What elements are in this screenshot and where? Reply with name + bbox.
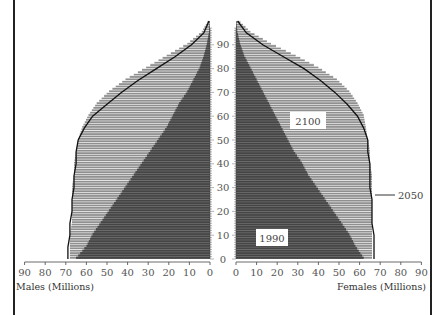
male-x-tick-label: 40 (121, 267, 134, 278)
age-tick-label: 50 (217, 135, 230, 146)
male-x-tick-label: 20 (162, 267, 175, 278)
female-x-tick-label: 50 (333, 267, 346, 278)
male-x-tick-label: 70 (59, 267, 72, 278)
age-tick-label: 20 (217, 206, 230, 217)
age-tick-label: 90 (217, 39, 230, 50)
male-x-tick-label: 10 (183, 267, 196, 278)
age-tick-label: 10 (217, 230, 230, 241)
females-axis-title: Females (Millions) (337, 281, 426, 292)
male-x-tick-label: 90 (18, 267, 31, 278)
female-x-tick-label: 70 (374, 267, 387, 278)
label-1990-text: 1990 (259, 233, 284, 244)
females-pyramid (236, 21, 374, 259)
age-tick-label: 70 (217, 87, 230, 98)
males-axis-title: Males (Millions) (16, 281, 94, 292)
age-tick-label: 60 (217, 111, 230, 122)
label-2100: 2100 (290, 112, 326, 129)
female-x-tick-label: 90 (415, 267, 428, 278)
males-pyramid (68, 21, 210, 259)
label-2050-text: 2050 (398, 190, 423, 201)
female-x-tick-label: 40 (312, 267, 325, 278)
male-x-tick-label: 0 (207, 267, 213, 278)
female-x-tick-label: 20 (271, 267, 284, 278)
age-tick-label: 40 (217, 158, 230, 169)
male-x-tick-label: 50 (101, 267, 114, 278)
age-tick-label: 30 (217, 182, 230, 193)
male-x-tick-label: 60 (80, 267, 93, 278)
population-pyramid-chart: 0010102020303040405050606070708080909001… (0, 0, 442, 315)
male-x-tick-label: 30 (142, 267, 155, 278)
label-2050: 2050 (375, 190, 423, 201)
female-x-tick-label: 30 (291, 267, 304, 278)
female-x-tick-label: 60 (353, 267, 366, 278)
female-x-tick-label: 10 (250, 267, 263, 278)
age-tick-label: 0 (220, 254, 226, 265)
label-1990: 1990 (256, 229, 288, 246)
age-tick-label: 80 (217, 63, 230, 74)
female-x-tick-label: 0 (233, 267, 239, 278)
female-x-tick-label: 80 (394, 267, 407, 278)
male-x-tick-label: 80 (39, 267, 52, 278)
label-2100-text: 2100 (295, 116, 320, 127)
